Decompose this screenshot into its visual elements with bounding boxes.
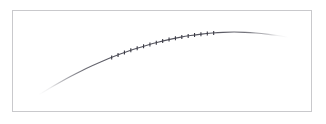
- curve-path: [38, 32, 288, 95]
- curve-series: [38, 32, 288, 95]
- curve-markers: [112, 31, 214, 59]
- screenshot-root: [0, 0, 326, 124]
- plot-canvas: [0, 0, 326, 124]
